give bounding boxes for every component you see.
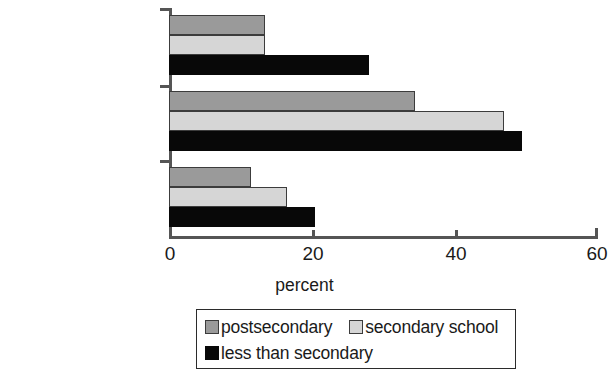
legend-row-1: postsecondary secondary school	[205, 314, 509, 340]
x-axis-title: percent	[0, 275, 609, 296]
x-axis-tick-40	[455, 230, 458, 239]
y-axis-tick-2	[160, 160, 169, 163]
bar-lebanon-postsecondary	[169, 15, 265, 35]
x-tick-label-0: 0	[140, 243, 200, 265]
x-tick-label-40: 40	[426, 243, 486, 265]
x-axis-tick-0	[169, 230, 172, 239]
x-axis-tick-60	[595, 228, 598, 239]
x-axis-tick-20	[312, 230, 315, 239]
x-axis-line	[169, 236, 598, 239]
bar-yemen-less-than-secondary	[169, 131, 522, 151]
bar-chart: Lebanon Yemen, Rep. Egypt, Arab Rep. 0 2…	[0, 0, 609, 375]
x-tick-label-60: 60	[567, 243, 609, 265]
bar-yemen-secondary-school	[169, 111, 504, 131]
postsecondary-swatch-icon	[205, 320, 219, 334]
bar-yemen-postsecondary	[169, 91, 415, 111]
x-tick-label-20: 20	[283, 243, 343, 265]
y-axis-tick-1	[160, 85, 169, 88]
legend-label-secondary-school: secondary school	[365, 317, 498, 338]
bar-egypt-postsecondary	[169, 167, 251, 187]
bar-egypt-secondary-school	[169, 187, 287, 207]
bar-lebanon-less-than-secondary	[169, 55, 369, 75]
less-than-secondary-swatch-icon	[205, 346, 219, 360]
legend-item-less-than-secondary: less than secondary	[205, 343, 373, 364]
legend-row-2: less than secondary	[205, 340, 509, 366]
legend-item-secondary-school: secondary school	[349, 317, 498, 338]
bar-egypt-less-than-secondary	[169, 207, 315, 227]
legend-label-postsecondary: postsecondary	[221, 317, 332, 338]
legend-item-postsecondary: postsecondary	[205, 317, 332, 338]
legend: postsecondary secondary school less than…	[196, 309, 516, 369]
legend-label-less-than-secondary: less than secondary	[221, 343, 373, 364]
bar-lebanon-secondary-school	[169, 35, 265, 55]
secondary-school-swatch-icon	[349, 320, 363, 334]
y-axis-tick-top	[160, 8, 169, 11]
